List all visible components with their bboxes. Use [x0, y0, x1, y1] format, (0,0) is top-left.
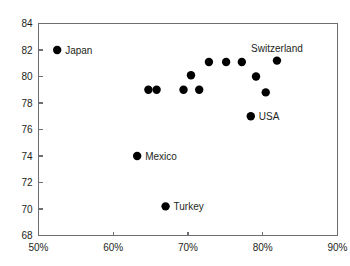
data-point — [222, 58, 230, 66]
y-tick-label: 78 — [21, 98, 33, 109]
y-tick-label: 72 — [21, 177, 33, 188]
x-tick-label: 80% — [253, 242, 273, 253]
y-tick-label: 80 — [21, 71, 33, 82]
plot-area: 687072747678808284 50%60%70%80%90% Japan… — [0, 0, 350, 266]
data-point-labels: JapanMexicoTurkeyUSASwitzerland — [65, 43, 303, 212]
y-tick-label: 76 — [21, 124, 33, 135]
data-point-label: Switzerland — [251, 43, 303, 54]
y-axis-tick-labels: 687072747678808284 — [21, 18, 33, 241]
data-point — [252, 72, 260, 80]
y-tick-label: 84 — [21, 18, 33, 29]
data-point — [161, 202, 169, 210]
data-points — [53, 46, 281, 211]
y-tick-label: 68 — [21, 230, 33, 241]
data-point — [247, 112, 255, 120]
scatter-chart: 687072747678808284 50%60%70%80%90% Japan… — [0, 0, 350, 266]
data-point — [187, 71, 195, 79]
data-point — [144, 86, 152, 94]
data-point-label: USA — [259, 111, 280, 122]
data-point — [195, 86, 203, 94]
data-point — [152, 86, 160, 94]
data-point — [273, 56, 281, 64]
x-axis-tick-labels: 50%60%70%80%90% — [28, 242, 347, 253]
data-point — [179, 86, 187, 94]
y-tick-label: 82 — [21, 45, 33, 56]
data-point — [53, 46, 61, 54]
y-tick-label: 74 — [21, 151, 33, 162]
data-point — [205, 58, 213, 66]
x-tick-label: 90% — [327, 242, 347, 253]
data-point — [133, 152, 141, 160]
x-tick-label: 60% — [103, 242, 123, 253]
y-tick-label: 70 — [21, 204, 33, 215]
data-point — [238, 58, 246, 66]
data-point-label: Japan — [65, 45, 92, 56]
data-point-label: Turkey — [174, 201, 204, 212]
data-point-label: Mexico — [145, 151, 177, 162]
x-tick-label: 70% — [178, 242, 198, 253]
data-point — [262, 88, 270, 96]
x-tick-label: 50% — [28, 242, 48, 253]
